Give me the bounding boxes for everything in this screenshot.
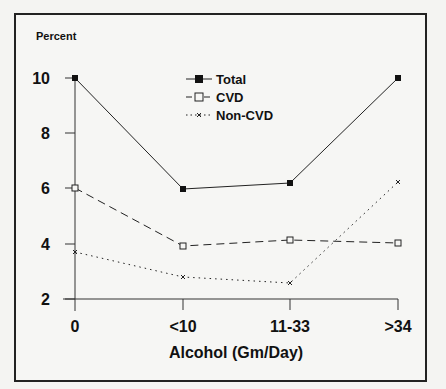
x-tick-labels: 0 <10 11-33 >34 (71, 318, 412, 335)
x-tick-gt34: >34 (384, 318, 411, 335)
y-tick-8: 8 (41, 125, 50, 142)
svg-text:CVD: CVD (216, 90, 243, 105)
x-tick-lt10: <10 (169, 318, 196, 335)
legend-item-total: Total (186, 72, 246, 87)
legend-item-cvd: CVD (186, 90, 243, 105)
series-cvd (72, 185, 401, 249)
x-tick-0: 0 (71, 318, 80, 335)
legend-item-non-cvd: Non-CVD (186, 108, 273, 123)
y-tick-2: 2 (41, 291, 50, 308)
y-tick-labels: 10 8 6 4 2 (32, 70, 50, 308)
x-axis-label: Alcohol (Gm/Day) (169, 344, 303, 361)
filled-square-icon (195, 75, 203, 83)
y-axis-label: Percent (36, 30, 77, 42)
series-non-cvd (73, 180, 400, 285)
x-tick-11-33: 11-33 (270, 318, 310, 335)
x-ticks (183, 299, 398, 310)
legend: Total CVD Non-CVD (186, 72, 273, 123)
y-tick-10: 10 (32, 70, 50, 87)
line-chart: Percent 10 8 6 4 2 0 <10 11-33 >34 Alcoh… (0, 0, 446, 389)
open-square-icon (195, 93, 203, 101)
y-tick-4: 4 (41, 236, 50, 253)
svg-text:Total: Total (216, 72, 246, 87)
svg-text:Non-CVD: Non-CVD (216, 108, 273, 123)
y-tick-6: 6 (41, 180, 50, 197)
